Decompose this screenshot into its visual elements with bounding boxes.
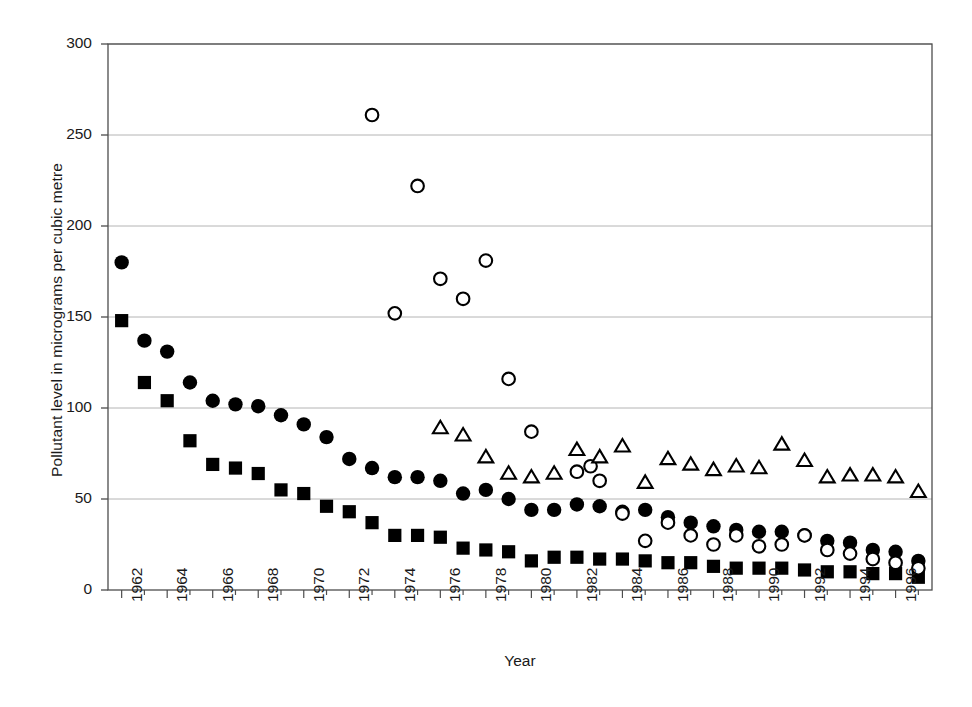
- y-tick-label: 50: [32, 490, 92, 506]
- data-point-filled-square: [548, 551, 561, 564]
- data-point-open-triangle: [683, 457, 698, 469]
- series-filled-square: [115, 314, 925, 584]
- x-tick-label: 1986: [675, 568, 690, 602]
- data-point-filled-circle: [592, 499, 606, 513]
- data-point-filled-square: [183, 434, 196, 447]
- data-point-filled-circle: [388, 470, 402, 484]
- data-point-filled-circle: [684, 515, 698, 529]
- x-tick-label: 1992: [812, 568, 827, 602]
- data-point-open-circle: [434, 272, 447, 285]
- data-point-filled-circle: [547, 503, 561, 517]
- x-axis-ticks: [122, 590, 919, 598]
- data-point-open-circle: [502, 373, 515, 386]
- data-point-filled-square: [843, 565, 856, 578]
- x-tick-label: 1968: [265, 568, 280, 602]
- data-point-filled-circle: [479, 483, 493, 497]
- x-tick-label: 1976: [447, 568, 462, 602]
- x-tick-label: 1982: [584, 568, 599, 602]
- data-point-filled-square: [388, 529, 401, 542]
- data-point-open-triangle: [706, 463, 721, 475]
- data-point-open-triangle: [570, 443, 585, 455]
- data-point-filled-circle: [137, 333, 151, 347]
- data-point-open-circle: [684, 529, 697, 542]
- data-point-filled-circle: [297, 417, 311, 431]
- data-point-filled-circle: [114, 255, 128, 269]
- x-tick-label: 1994: [857, 568, 872, 602]
- data-point-open-circle: [798, 529, 811, 542]
- data-point-open-circle: [366, 109, 379, 122]
- data-point-filled-circle: [706, 519, 720, 533]
- data-point-open-circle: [639, 535, 652, 548]
- x-tick-label: 1966: [220, 568, 235, 602]
- x-tick-label: 1978: [493, 568, 508, 602]
- y-tick-label: 300: [32, 35, 92, 51]
- data-point-filled-circle: [752, 525, 766, 539]
- data-point-filled-square: [479, 543, 492, 556]
- data-point-open-circle: [707, 538, 720, 551]
- data-point-open-triangle: [592, 450, 607, 462]
- series-filled-circle: [114, 255, 925, 568]
- y-tick-label: 0: [32, 581, 92, 597]
- x-tick-label: 1970: [311, 568, 326, 602]
- data-point-open-triangle: [661, 452, 676, 464]
- data-point-filled-square: [661, 556, 674, 569]
- data-point-open-triangle: [547, 466, 562, 478]
- data-point-filled-circle: [274, 408, 288, 422]
- data-point-filled-circle: [319, 430, 333, 444]
- data-point-filled-square: [639, 554, 652, 567]
- data-point-filled-square: [365, 516, 378, 529]
- data-point-open-triangle: [433, 421, 448, 433]
- data-point-open-circle: [480, 254, 493, 267]
- data-point-filled-circle: [342, 452, 356, 466]
- data-point-filled-square: [343, 505, 356, 518]
- data-point-open-circle: [821, 544, 834, 557]
- data-point-filled-square: [138, 376, 151, 389]
- data-point-filled-square: [434, 531, 447, 544]
- data-point-filled-square: [320, 500, 333, 513]
- data-point-open-circle: [571, 465, 584, 478]
- data-point-open-circle: [844, 547, 857, 560]
- data-point-filled-square: [456, 542, 469, 555]
- data-point-open-triangle: [456, 428, 471, 440]
- data-point-open-circle: [616, 507, 629, 520]
- x-tick-label: 1990: [766, 568, 781, 602]
- data-point-open-circle: [411, 180, 424, 193]
- data-point-open-triangle: [752, 461, 767, 473]
- data-point-open-circle: [389, 307, 402, 320]
- data-point-filled-square: [525, 554, 538, 567]
- data-point-open-circle: [662, 516, 675, 529]
- data-point-open-triangle: [524, 470, 539, 482]
- x-tick-label: 1962: [129, 568, 144, 602]
- data-point-open-triangle: [478, 450, 493, 462]
- x-tick-label: 1980: [538, 568, 553, 602]
- data-point-filled-square: [206, 458, 219, 471]
- data-point-filled-square: [297, 487, 310, 500]
- data-point-filled-square: [616, 552, 629, 565]
- data-point-open-triangle: [911, 484, 926, 496]
- y-axis-ticks: [101, 44, 108, 590]
- data-point-filled-circle: [251, 399, 265, 413]
- data-point-filled-square: [274, 483, 287, 496]
- data-point-filled-circle: [365, 461, 379, 475]
- data-point-open-circle: [775, 538, 788, 551]
- y-tick-label: 250: [32, 126, 92, 142]
- data-point-open-triangle: [888, 470, 903, 482]
- data-point-filled-square: [411, 529, 424, 542]
- data-point-filled-circle: [524, 503, 538, 517]
- data-point-filled-circle: [183, 375, 197, 389]
- series-open-triangle: [433, 421, 926, 497]
- data-point-filled-square: [115, 314, 128, 327]
- data-point-open-circle: [525, 425, 538, 438]
- data-point-filled-square: [593, 552, 606, 565]
- data-point-filled-square: [752, 562, 765, 575]
- y-tick-label: 200: [32, 217, 92, 233]
- data-markers-group: [114, 109, 925, 584]
- data-point-filled-circle: [570, 497, 584, 511]
- data-point-open-triangle: [774, 437, 789, 449]
- data-point-filled-square: [229, 461, 242, 474]
- data-point-filled-circle: [433, 474, 447, 488]
- data-point-filled-square: [161, 394, 174, 407]
- x-tick-label: 1984: [629, 568, 644, 602]
- y-tick-label: 150: [32, 308, 92, 324]
- data-point-open-triangle: [729, 459, 744, 471]
